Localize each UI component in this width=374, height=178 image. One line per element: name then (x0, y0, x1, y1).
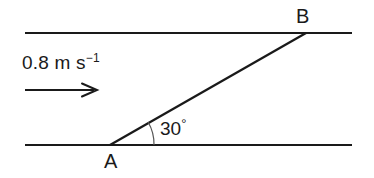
angle-value: 30 (160, 118, 181, 139)
point-a-label: A (104, 151, 117, 171)
diagram-canvas (0, 0, 374, 178)
velocity-label: 0.8 m s−1 (22, 53, 100, 72)
physics-diagram: 0.8 m s−1 30° A B (0, 0, 374, 178)
angle-arc (148, 122, 154, 145)
velocity-exponent: −1 (86, 51, 100, 65)
angle-label: 30° (160, 119, 186, 138)
diagonal-line-ab (110, 33, 306, 145)
degree-symbol: ° (181, 116, 186, 131)
velocity-value: 0.8 m s (22, 52, 86, 73)
point-b-label: B (296, 6, 309, 26)
